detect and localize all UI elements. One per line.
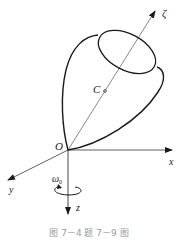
- y-axis-label: y: [8, 184, 14, 195]
- body-top-ellipse: [91, 22, 163, 83]
- angular-velocity-label: ω0: [52, 173, 62, 185]
- center-of-mass-point: [104, 90, 107, 93]
- origin-label: O: [55, 140, 63, 152]
- z-axis-label: z: [75, 202, 80, 213]
- x-axis-label: x: [168, 156, 174, 167]
- rigid-body-diagram: C x y z ζ O ω0 图 7－4 题 7－9 图: [0, 0, 178, 240]
- body-outline: [62, 35, 163, 150]
- zeta-axis-label: ζ: [162, 7, 168, 20]
- center-of-mass-label: C: [93, 83, 101, 95]
- figure-caption: 图 7－4 题 7－9 图: [49, 228, 128, 238]
- zeta-axis: [68, 11, 155, 150]
